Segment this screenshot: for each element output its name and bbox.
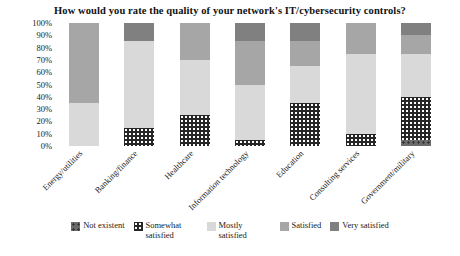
y-axis-tick: 80% bbox=[12, 43, 52, 52]
legend-label: Mostly satisfied bbox=[219, 221, 271, 240]
legend-swatch bbox=[330, 222, 339, 231]
bar-segment[interactable] bbox=[401, 35, 431, 53]
bar-segment[interactable] bbox=[124, 23, 154, 41]
bar-segment[interactable] bbox=[124, 41, 154, 127]
y-axis-tick: 30% bbox=[12, 105, 52, 114]
bar-segment[interactable] bbox=[346, 23, 376, 54]
legend-swatch bbox=[134, 222, 143, 231]
y-axis-tick: 100% bbox=[12, 19, 52, 28]
bar-segment[interactable] bbox=[180, 23, 210, 60]
legend-item[interactable]: Not existent bbox=[71, 221, 124, 231]
bar-segment[interactable] bbox=[401, 54, 431, 97]
legend-label: Somewhat satisfied bbox=[146, 221, 198, 240]
legend-item[interactable]: Somewhat satisfied bbox=[134, 221, 198, 240]
legend-item[interactable]: Mostly satisfied bbox=[207, 221, 271, 240]
bar-column[interactable] bbox=[124, 23, 154, 146]
bar-segment[interactable] bbox=[180, 60, 210, 115]
y-axis-tick: 10% bbox=[12, 129, 52, 138]
legend-label: Very satisfied bbox=[342, 221, 389, 231]
y-axis-tick: 70% bbox=[12, 55, 52, 64]
bar-column[interactable] bbox=[346, 23, 376, 146]
legend-label: Satisfied bbox=[292, 221, 322, 231]
bar-segment[interactable] bbox=[346, 54, 376, 134]
legend-swatch bbox=[207, 222, 216, 231]
bar-segment[interactable] bbox=[235, 23, 265, 41]
bar-segment[interactable] bbox=[69, 23, 99, 103]
y-axis-tick: 40% bbox=[12, 92, 52, 101]
y-axis: 100%90%80%70%60%50%40%30%20%10%0% bbox=[12, 23, 52, 146]
legend-item[interactable]: Satisfied bbox=[280, 221, 322, 231]
bar-segment[interactable] bbox=[290, 23, 320, 41]
legend-swatch bbox=[280, 222, 289, 231]
bar-column[interactable] bbox=[401, 23, 431, 146]
y-axis-tick: 20% bbox=[12, 117, 52, 126]
legend-item[interactable]: Very satisfied bbox=[330, 221, 389, 231]
bar-column[interactable] bbox=[180, 23, 210, 146]
chart-legend: Not existentSomewhat satisfiedMostly sat… bbox=[0, 221, 460, 253]
y-axis-tick: 50% bbox=[12, 80, 52, 89]
bar-column[interactable] bbox=[69, 23, 99, 146]
legend-swatch bbox=[71, 222, 80, 231]
chart-title: How would you rate the quality of your n… bbox=[0, 5, 460, 16]
bar-segment[interactable] bbox=[235, 41, 265, 84]
y-axis-tick: 90% bbox=[12, 31, 52, 40]
bar-segment[interactable] bbox=[401, 23, 431, 35]
bar-column[interactable] bbox=[235, 23, 265, 146]
bar-column[interactable] bbox=[290, 23, 320, 146]
y-axis-tick: 60% bbox=[12, 68, 52, 77]
x-axis: Energy/utilitiesBanking/financeHealthcar… bbox=[0, 146, 460, 218]
bar-segment[interactable] bbox=[290, 41, 320, 66]
legend-label: Not existent bbox=[83, 221, 124, 231]
stacked-bar-chart: How would you rate the quality of your n… bbox=[0, 0, 460, 256]
